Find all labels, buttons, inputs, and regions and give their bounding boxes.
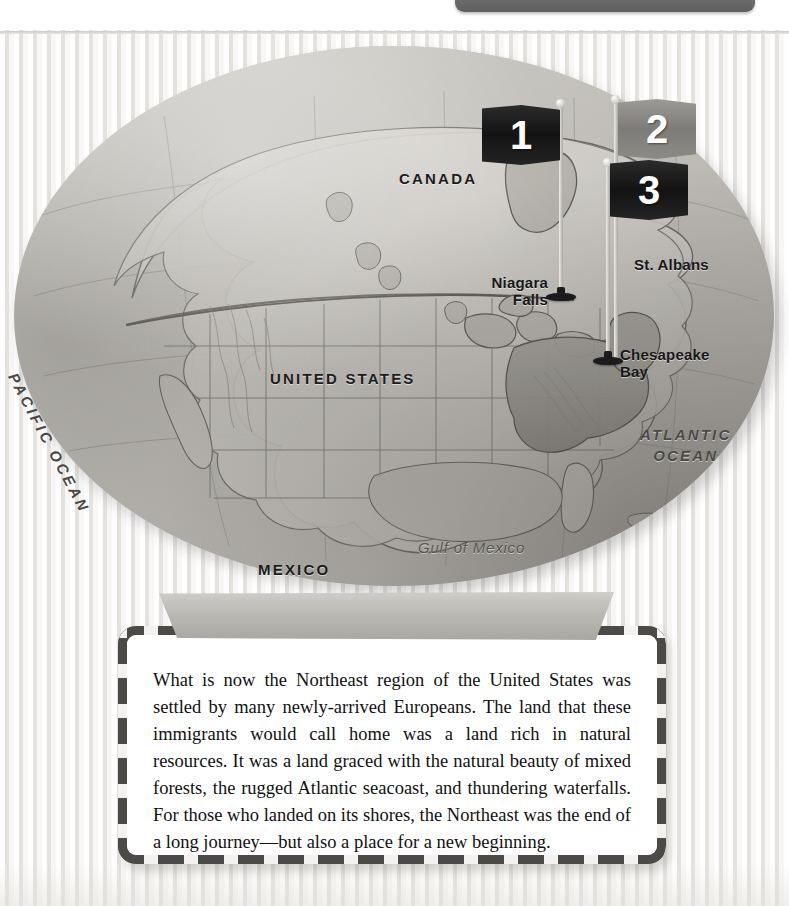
map-label-niagara-line1: Niagara bbox=[430, 274, 548, 291]
map-label-atlantic-line1: ATLANTIC bbox=[640, 424, 731, 445]
top-tab[interactable] bbox=[455, 0, 755, 12]
map-label-chesapeake-line2: Bay bbox=[620, 363, 710, 380]
map-label-atlantic-ocean: ATLANTIC OCEAN bbox=[640, 424, 731, 466]
map-flag-1[interactable]: 1 bbox=[482, 105, 560, 165]
map-label-gulf-of-mexico: Gulf of Mexico bbox=[418, 539, 525, 556]
map-label-atlantic-line2: OCEAN bbox=[640, 445, 731, 466]
map-label-mexico: MEXICO bbox=[258, 561, 330, 578]
map-label-chesapeake-line1: Chesapeake bbox=[620, 346, 710, 363]
map-label-canada: CANADA bbox=[399, 170, 477, 187]
flag-pole-2 bbox=[614, 100, 618, 362]
flag-base-3 bbox=[593, 357, 623, 365]
map-flag-3[interactable]: 3 bbox=[610, 160, 688, 220]
body-paragraph: What is now the Northeast region of the … bbox=[153, 667, 631, 856]
map-label-niagara-line2: Falls bbox=[430, 291, 548, 308]
map-label-niagara-falls: Niagara Falls bbox=[430, 274, 548, 308]
flag-base-1 bbox=[546, 293, 576, 301]
map-label-chesapeake-bay: Chesapeake Bay bbox=[620, 346, 710, 380]
map-flag-2[interactable]: 2 bbox=[618, 99, 696, 159]
map-label-st-albans: St. Albans bbox=[634, 256, 709, 273]
flag-pole-3 bbox=[606, 163, 610, 363]
page-root: CANADA UNITED STATES MEXICO PACIFIC OCEA… bbox=[0, 0, 789, 906]
paper-top-rule bbox=[0, 31, 789, 34]
map-label-united-states: UNITED STATES bbox=[270, 370, 416, 387]
flag-knob-1 bbox=[556, 99, 565, 108]
textbox-content: What is now the Northeast region of the … bbox=[127, 635, 657, 855]
why-we-remember-banner bbox=[159, 592, 614, 640]
